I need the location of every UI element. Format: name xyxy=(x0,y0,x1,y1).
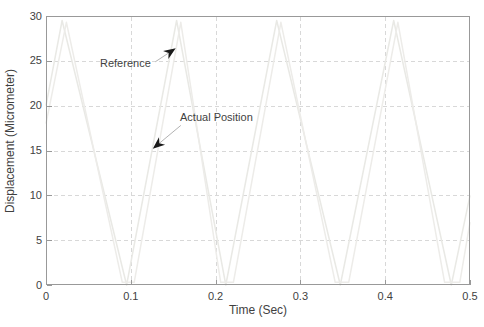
x-tick-label: 0.2 xyxy=(201,290,231,303)
y-tick-label: 0 xyxy=(8,279,42,292)
x-axis-label: Time (Sec) xyxy=(46,303,470,317)
annotation-reference: Reference xyxy=(100,57,151,69)
y-tick-label: 20 xyxy=(8,99,42,112)
chart-figure: Time (Sec) Displacement (Micrometer) Ref… xyxy=(0,0,484,327)
y-tick-label: 15 xyxy=(8,144,42,157)
x-tick-label: 0.1 xyxy=(116,290,146,303)
plot-area xyxy=(0,0,484,327)
annotation-actual-position: Actual Position xyxy=(180,111,253,123)
x-tick-label: 0.5 xyxy=(455,290,484,303)
y-tick-label: 10 xyxy=(8,189,42,202)
x-tick-label: 0 xyxy=(31,290,61,303)
y-tick-label: 5 xyxy=(8,234,42,247)
x-tick-label: 0.3 xyxy=(285,290,315,303)
x-tick-label: 0.4 xyxy=(370,290,400,303)
y-tick-label: 30 xyxy=(8,10,42,23)
y-tick-label: 25 xyxy=(8,54,42,67)
